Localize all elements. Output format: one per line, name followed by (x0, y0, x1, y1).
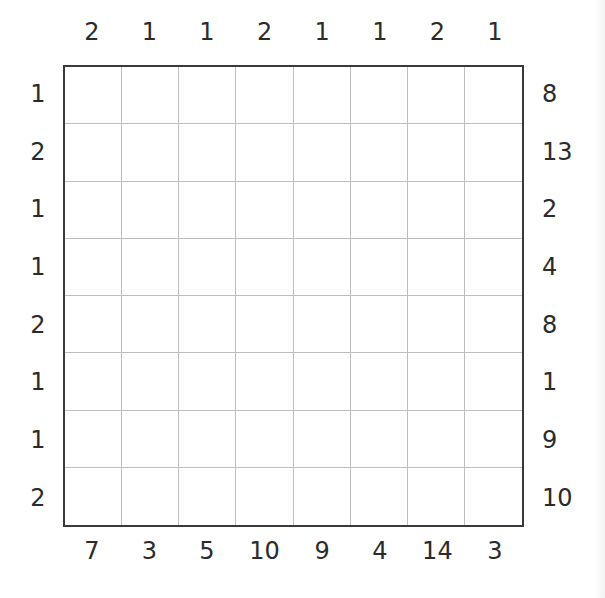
grid-cell[interactable] (236, 239, 293, 296)
grid-cell[interactable] (465, 124, 522, 181)
grid-cell[interactable] (465, 296, 522, 353)
grid-cell[interactable] (179, 182, 236, 239)
right-clue-4: 4 (542, 253, 592, 281)
grid-cell[interactable] (236, 468, 293, 525)
grid-cell[interactable] (351, 296, 408, 353)
page-edge (595, 0, 605, 598)
grid-cell[interactable] (294, 67, 351, 124)
grid-cell[interactable] (294, 182, 351, 239)
grid-cell[interactable] (122, 353, 179, 410)
left-clue-3: 1 (18, 195, 58, 223)
right-clue-8: 10 (542, 484, 592, 512)
grid-cell[interactable] (122, 182, 179, 239)
left-clue-2: 2 (18, 138, 58, 166)
grid-cell[interactable] (465, 182, 522, 239)
grid-cell[interactable] (179, 411, 236, 468)
top-clue-2: 1 (121, 18, 179, 46)
grid-cell[interactable] (408, 182, 465, 239)
grid-cell[interactable] (294, 239, 351, 296)
grid-cell[interactable] (65, 124, 122, 181)
grid-cell[interactable] (122, 296, 179, 353)
left-clue-4: 1 (18, 253, 58, 281)
grid-cell[interactable] (122, 67, 179, 124)
grid-cell[interactable] (408, 239, 465, 296)
right-clue-2: 13 (542, 138, 592, 166)
grid-cell[interactable] (236, 296, 293, 353)
top-clue-8: 1 (466, 18, 524, 46)
grid-cell[interactable] (294, 411, 351, 468)
grid-cell[interactable] (179, 239, 236, 296)
left-clue-5: 2 (18, 311, 58, 339)
grid-cell[interactable] (179, 67, 236, 124)
grid-cell[interactable] (179, 468, 236, 525)
grid-cell[interactable] (465, 67, 522, 124)
bottom-clue-3: 5 (178, 537, 236, 565)
grid-cell[interactable] (408, 296, 465, 353)
bottom-clue-1: 7 (63, 537, 121, 565)
grid-cell[interactable] (465, 411, 522, 468)
grid-cell[interactable] (294, 124, 351, 181)
top-clue-3: 1 (178, 18, 236, 46)
right-clue-3: 2 (542, 195, 592, 223)
grid-cell[interactable] (351, 353, 408, 410)
right-clue-5: 8 (542, 311, 592, 339)
bottom-clue-7: 14 (409, 537, 467, 565)
grid-cell[interactable] (179, 124, 236, 181)
grid-cell[interactable] (122, 239, 179, 296)
grid-cell[interactable] (65, 411, 122, 468)
grid-cell[interactable] (65, 239, 122, 296)
puzzle-grid (63, 65, 524, 527)
bottom-clue-6: 4 (351, 537, 409, 565)
grid-cell[interactable] (236, 353, 293, 410)
grid-cell[interactable] (236, 124, 293, 181)
grid-cell[interactable] (465, 353, 522, 410)
bottom-clue-8: 3 (466, 537, 524, 565)
left-clue-7: 1 (18, 426, 58, 454)
left-clue-6: 1 (18, 368, 58, 396)
grid-cell[interactable] (65, 296, 122, 353)
grid-cell[interactable] (122, 468, 179, 525)
grid-cell[interactable] (408, 411, 465, 468)
grid-cell[interactable] (294, 296, 351, 353)
grid-cell[interactable] (236, 182, 293, 239)
top-clue-1: 2 (63, 18, 121, 46)
grid-cell[interactable] (294, 353, 351, 410)
grid-cell[interactable] (294, 468, 351, 525)
right-clue-1: 8 (542, 80, 592, 108)
bottom-clue-4: 10 (236, 537, 294, 565)
top-clue-5: 1 (293, 18, 351, 46)
grid-cell[interactable] (351, 468, 408, 525)
top-clue-7: 2 (409, 18, 467, 46)
grid-cell[interactable] (122, 411, 179, 468)
right-clue-6: 1 (542, 368, 592, 396)
grid-cell[interactable] (65, 182, 122, 239)
grid-cell[interactable] (351, 67, 408, 124)
bottom-clue-5: 9 (293, 537, 351, 565)
grid-cell[interactable] (465, 468, 522, 525)
grid-cell[interactable] (179, 353, 236, 410)
grid-cell[interactable] (65, 67, 122, 124)
grid-cell[interactable] (408, 468, 465, 525)
grid-cell[interactable] (351, 182, 408, 239)
grid-cell[interactable] (408, 67, 465, 124)
top-clue-4: 2 (236, 18, 294, 46)
grid-cell[interactable] (65, 353, 122, 410)
bottom-clue-2: 3 (121, 537, 179, 565)
grid-cell[interactable] (351, 124, 408, 181)
grid-cell[interactable] (408, 124, 465, 181)
grid-cell[interactable] (351, 239, 408, 296)
grid-cell[interactable] (236, 411, 293, 468)
grid-cell[interactable] (236, 67, 293, 124)
grid-cell[interactable] (351, 411, 408, 468)
left-clue-1: 1 (18, 80, 58, 108)
grid-cell[interactable] (408, 353, 465, 410)
right-clue-7: 9 (542, 426, 592, 454)
grid-cell[interactable] (65, 468, 122, 525)
grid-cell[interactable] (122, 124, 179, 181)
grid-cell[interactable] (179, 296, 236, 353)
left-clue-8: 2 (18, 484, 58, 512)
grid-cell[interactable] (465, 239, 522, 296)
top-clue-6: 1 (351, 18, 409, 46)
